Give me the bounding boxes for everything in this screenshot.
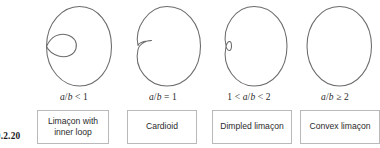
convex-limacon-path <box>307 7 372 87</box>
limacon-inner-loop-icon <box>32 2 122 90</box>
name-box-line-1: Limaçon with <box>48 116 98 128</box>
curve-panel-limacon-with-inner-loop <box>32 2 122 90</box>
limacon-inner-loop-path <box>47 7 112 87</box>
name-box-lines: Convex limaçon <box>309 121 370 133</box>
name-box-line-1: Cardioid <box>146 121 178 133</box>
ratio-suffix: < 1 <box>73 92 88 102</box>
cardioid-path <box>137 7 200 87</box>
dimpled-limacon-icon <box>208 2 298 90</box>
ratio-suffix: = 1 <box>162 92 177 102</box>
figure-caption: e 10.2.20 <box>0 131 20 141</box>
ratio-label-cardioid: a/b = 1 <box>117 92 209 102</box>
curve-panel-cardioid <box>122 2 212 90</box>
limacon-inner-loop-loop-path <box>47 34 77 57</box>
name-box-convex-limacon: Convex limaçon <box>300 110 380 144</box>
ratio-label-convex-limacon: a/b ≥ 2 <box>289 92 380 102</box>
name-box-line-2: inner loop <box>48 127 98 139</box>
convex-limacon-icon <box>293 2 380 90</box>
curve-panel-convex-limacon <box>293 2 380 90</box>
curve-panel-dimpled-limacon <box>208 2 298 90</box>
dimpled-limacon-path <box>225 7 287 87</box>
name-box-line-1: Convex limaçon <box>309 121 370 133</box>
name-box-limacon-with-inner-loop: Limaçon with inner loop <box>37 110 109 144</box>
name-box-dimpled-limacon: Dimpled limaçon <box>212 110 292 144</box>
name-box-lines: Cardioid <box>146 121 178 133</box>
name-box-cardioid: Cardioid <box>127 110 197 144</box>
ratio-label-dimpled-limacon: 1 < a/b < 2 <box>203 92 295 102</box>
ratio-label-limacon-with-inner-loop: a/b < 1 <box>28 92 120 102</box>
name-box-lines: Limaçon with inner loop <box>48 116 98 139</box>
ratio-suffix: < 2 <box>255 92 270 102</box>
cardioid-icon <box>122 2 212 90</box>
name-box-lines: Dimpled limaçon <box>220 121 284 133</box>
name-box-line-1: Dimpled limaçon <box>220 121 284 133</box>
limacon-classification-figure: a/b < 1 a/b = 1 1 < a/b < 2 a/b ≥ 2 Lima… <box>0 0 380 148</box>
ratio-prefix: 1 < <box>227 92 242 102</box>
ratio-suffix: ≥ 2 <box>334 92 349 102</box>
